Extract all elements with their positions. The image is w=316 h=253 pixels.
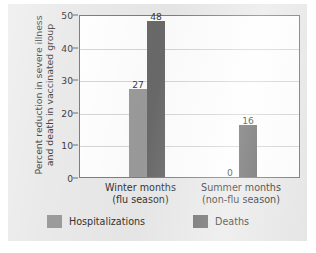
- legend-swatch-deaths-icon: [193, 215, 208, 228]
- plot-frame: 27 48 0 16: [79, 15, 300, 178]
- x-axis-label-summer: Summer months (non-flu season): [186, 182, 296, 205]
- y-tick-mark-20: [73, 112, 78, 113]
- chart-figure: Percent reduction in severe illness and …: [8, 4, 307, 241]
- legend-entry-hospitalizations: Hospitalizations: [47, 215, 145, 228]
- x-axis-label-summer-line-1: Summer months: [186, 182, 296, 194]
- y-tick-mark-0: [73, 178, 78, 179]
- x-axis-label-winter-line-2: (flu season): [93, 194, 188, 206]
- bar-winter-hospitalizations: [129, 89, 147, 177]
- y-tick-mark-40: [73, 47, 78, 48]
- x-axis-label-winter: Winter months (flu season): [93, 182, 188, 205]
- y-tick-label-10: 10: [56, 140, 73, 151]
- plot-area: 27 48 0 16: [80, 16, 299, 177]
- y-tick-mark-30: [73, 80, 78, 81]
- y-tick-label-0: 0: [56, 173, 73, 184]
- data-label-winter-hospitalizations: 27: [124, 79, 152, 90]
- data-label-winter-deaths: 48: [142, 11, 170, 22]
- chart-legend: Hospitalizations Deaths: [8, 215, 307, 233]
- data-label-summer-deaths: 16: [234, 115, 262, 126]
- gridline-20: [80, 114, 299, 115]
- gridline-10: [80, 146, 299, 147]
- y-tick-label-30: 30: [56, 75, 73, 86]
- y-tick-label-50: 50: [56, 10, 73, 21]
- legend-entry-deaths: Deaths: [193, 215, 249, 228]
- bar-winter-deaths: [147, 21, 165, 177]
- x-axis-label-winter-line-1: Winter months: [93, 182, 188, 194]
- gridline-40: [80, 49, 299, 50]
- data-label-summer-hospitalizations: 0: [216, 167, 244, 178]
- y-tick-mark-50: [73, 15, 78, 16]
- gridline-30: [80, 81, 299, 82]
- y-tick-mark-10: [73, 145, 78, 146]
- legend-swatch-hospitalizations-icon: [47, 215, 62, 228]
- y-tick-label-40: 40: [56, 42, 73, 53]
- y-axis-ticks: 0 10 20 30 40 50: [52, 15, 73, 178]
- legend-label-deaths: Deaths: [215, 216, 249, 227]
- y-tick-label-20: 20: [56, 107, 73, 118]
- legend-label-hospitalizations: Hospitalizations: [69, 216, 145, 227]
- x-axis-label-summer-line-2: (non-flu season): [186, 194, 296, 206]
